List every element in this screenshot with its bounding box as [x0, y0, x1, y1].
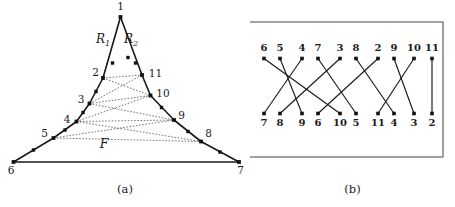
figure-root: 1234567891011 R1R2F (a) 6547382910117896…	[0, 0, 455, 207]
permutation-edge-group	[264, 59, 432, 114]
dashed-chord-2-11	[103, 75, 142, 78]
caption-b: (b)	[250, 182, 455, 196]
top-dot-6	[262, 57, 266, 61]
dashed-chord-5-8	[54, 138, 202, 142]
top-label-5: 5	[277, 42, 284, 53]
bottom-label-3: 3	[411, 117, 418, 128]
bottom-label-2: 2	[429, 117, 436, 128]
bottom-dot-4	[392, 112, 396, 116]
top-dot-7	[316, 57, 320, 61]
bottom-label-9: 9	[299, 117, 306, 128]
bottom-label-5: 5	[353, 117, 360, 128]
top-label-11: 11	[425, 42, 439, 53]
bottom-dot-10	[338, 112, 342, 116]
top-label-10: 10	[407, 42, 421, 53]
top-label-9: 9	[391, 42, 398, 53]
top-dot-4	[300, 57, 304, 61]
bottom-dot-9	[300, 112, 304, 116]
top-label-7: 7	[315, 42, 322, 53]
vertex-label-5: 5	[41, 127, 48, 139]
subdivision-dot-6	[160, 106, 163, 109]
region-label-R2: R2	[123, 32, 138, 48]
dashed-chord-5-9	[54, 120, 175, 138]
top-label-8: 8	[353, 42, 360, 53]
bottom-dot-6	[316, 112, 320, 116]
vertex-dot-8	[199, 140, 203, 144]
bottom-label-10: 10	[333, 117, 347, 128]
vertex-label-7: 7	[237, 164, 244, 176]
vertex-dot-1	[119, 15, 123, 19]
subdivision-dot-7	[186, 130, 189, 133]
vertex-label-1: 1	[117, 0, 124, 12]
bottom-label-4: 4	[391, 117, 398, 128]
vertex-label-8: 8	[205, 127, 212, 139]
dashed-chord-4-10	[77, 96, 151, 122]
vertex-label-10: 10	[156, 87, 169, 99]
subdivision-dot-8	[218, 150, 221, 153]
subdivision-dot-2	[111, 61, 114, 64]
top-dot-5	[278, 57, 282, 61]
face-label-F: F	[99, 136, 110, 151]
top-dot-10	[412, 57, 416, 61]
bottom-dot-11	[376, 112, 380, 116]
bottom-label-7: 7	[261, 117, 268, 128]
top-label-4: 4	[299, 42, 306, 53]
vertex-dot-11	[140, 73, 144, 77]
top-dot-8	[354, 57, 358, 61]
bottom-dot-3	[412, 112, 416, 116]
top-label-2: 2	[375, 42, 382, 53]
panel-a: 1234567891011 R1R2F	[0, 0, 250, 207]
dashed-chord-3-10	[90, 96, 151, 104]
subdivision-dot-3	[94, 90, 97, 93]
vertex-dot-10	[149, 94, 153, 98]
top-dot-11	[430, 57, 434, 61]
subdivision-dot-4	[81, 111, 84, 114]
bottom-label-6: 6	[315, 117, 322, 128]
top-dot-3	[338, 57, 342, 61]
vertex-label-2: 2	[92, 66, 99, 78]
vertex-dot-3	[88, 102, 92, 106]
top-dot-9	[392, 57, 396, 61]
vertex-label-9: 9	[178, 109, 185, 121]
region-label-R1: R1	[95, 32, 110, 48]
permutation-edge-6-10	[264, 59, 340, 114]
permutation-edge-3-8	[280, 59, 340, 114]
top-dot-2	[376, 57, 380, 61]
vertex-dot-9	[172, 118, 176, 122]
region-subscript-R1: 1	[105, 39, 110, 48]
permutation-edge-7-5	[318, 59, 356, 114]
region-subscript-R2: 2	[132, 39, 138, 48]
polygon-svg: 1234567891011 R1R2F	[0, 0, 250, 180]
vertex-label-11: 11	[149, 67, 162, 79]
vertex-dot-4	[75, 120, 79, 124]
vertex-dot-5	[52, 136, 56, 140]
subdivision-dot-0	[126, 56, 129, 59]
panel-b: 654738291011789610511432	[250, 0, 455, 207]
vertex-label-6: 6	[8, 164, 15, 176]
permutation-edge-2-6	[318, 59, 378, 114]
subdivision-dot-9	[32, 148, 35, 151]
top-label-6: 6	[261, 42, 268, 53]
subdivision-dot-5	[63, 128, 66, 131]
vertex-label-3: 3	[78, 93, 85, 105]
subdivision-dot-1	[134, 61, 137, 64]
vertex-dot-2	[101, 76, 105, 80]
dashed-chord-2-10	[103, 78, 151, 96]
bottom-dot-7	[262, 112, 266, 116]
permutation-edge-8-4	[356, 59, 394, 114]
vertex-label-4: 4	[64, 113, 71, 125]
caption-a: (a)	[0, 182, 250, 196]
bottom-dot-2	[430, 112, 434, 116]
bottom-label-11: 11	[371, 117, 385, 128]
bottom-label-8: 8	[277, 117, 284, 128]
permutation-edge-10-11	[378, 59, 414, 114]
bottom-dot-5	[354, 112, 358, 116]
permutation-svg: 654738291011789610511432	[250, 0, 455, 180]
permutation-edge-9-3	[394, 59, 414, 114]
dashed-chord-4-9	[77, 120, 175, 122]
vertex-label-group: 1234567891011	[8, 0, 244, 176]
outline-right-chain	[121, 17, 240, 162]
bottom-dot-8	[278, 112, 282, 116]
top-label-3: 3	[337, 42, 344, 53]
region-label-group: R1R2F	[95, 32, 138, 151]
